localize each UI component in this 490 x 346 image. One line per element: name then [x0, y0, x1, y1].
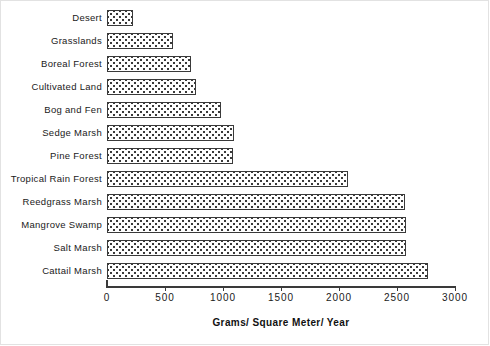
x-tick-label: 1000: [210, 292, 236, 304]
x-tick-label: 1500: [268, 292, 294, 304]
x-tick: [339, 286, 340, 291]
bar: [107, 148, 233, 164]
x-tick: [281, 286, 282, 291]
category-label: Grasslands: [0, 36, 102, 46]
x-tick: [223, 286, 224, 291]
bar: [107, 125, 234, 141]
x-tick-label: 0: [104, 292, 111, 304]
category-label: Tropical Rain Forest: [0, 174, 102, 184]
bar: [107, 33, 173, 49]
x-tick: [397, 286, 398, 291]
bar: [107, 171, 348, 187]
category-label: Salt Marsh: [0, 243, 102, 253]
category-label: Sedge Marsh: [0, 128, 102, 138]
category-label: Cultivated Land: [0, 82, 102, 92]
bar: [107, 263, 428, 279]
x-tick: [455, 286, 456, 291]
horizontal-bar-chart: DesertGrasslandsBoreal ForestCultivated …: [0, 0, 490, 346]
bar: [107, 240, 406, 256]
x-tick-label: 2500: [384, 292, 410, 304]
bar: [107, 79, 196, 95]
x-tick: [165, 286, 166, 291]
category-axis-labels: DesertGrasslandsBoreal ForestCultivated …: [0, 10, 102, 286]
bar: [107, 194, 405, 210]
category-label: Boreal Forest: [0, 59, 102, 69]
category-label: Mangrove Swamp: [0, 220, 102, 230]
bar: [107, 10, 133, 26]
category-label: Bog and Fen: [0, 105, 102, 115]
category-label: Desert: [0, 13, 102, 23]
bar: [107, 56, 191, 72]
x-tick-label: 500: [155, 292, 175, 304]
bar: [107, 102, 221, 118]
category-label: Cattail Marsh: [0, 266, 102, 276]
category-label: Pine Forest: [0, 151, 102, 161]
bar: [107, 217, 406, 233]
plot-area: [107, 10, 455, 286]
x-tick-label: 3000: [442, 292, 468, 304]
x-tick-label: 2000: [326, 292, 352, 304]
x-axis-title: Grams/ Square Meter/ Year: [107, 317, 455, 328]
category-label: Reedgrass Marsh: [0, 197, 102, 207]
